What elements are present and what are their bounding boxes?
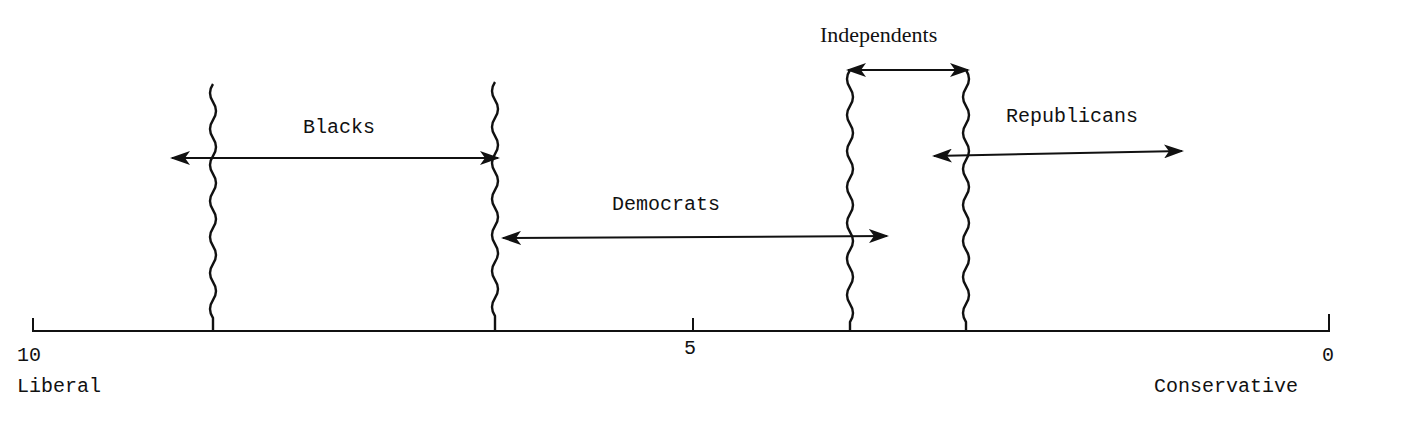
boundary-wavy-line xyxy=(210,84,216,331)
republicans-range-arrow xyxy=(934,151,1182,156)
label-democrats: Democrats xyxy=(612,195,720,215)
boundary-wavy-line xyxy=(847,70,853,331)
boundary-wavy-line xyxy=(963,70,969,331)
tick-label-0: 0 xyxy=(1322,346,1334,366)
democrats-range-arrow xyxy=(503,236,887,238)
label-republicans: Republicans xyxy=(1006,107,1138,127)
axis-label-liberal: Liberal xyxy=(17,377,101,397)
boundaries xyxy=(210,70,969,331)
tick-label-10: 10 xyxy=(17,346,41,366)
axis xyxy=(32,314,1330,331)
axis-label-conservative: Conservative xyxy=(1154,377,1298,397)
label-independents: Independents xyxy=(820,24,937,46)
label-blacks: Blacks xyxy=(303,118,375,138)
boundary-wavy-line xyxy=(492,82,498,331)
tick-label-5: 5 xyxy=(684,339,696,359)
